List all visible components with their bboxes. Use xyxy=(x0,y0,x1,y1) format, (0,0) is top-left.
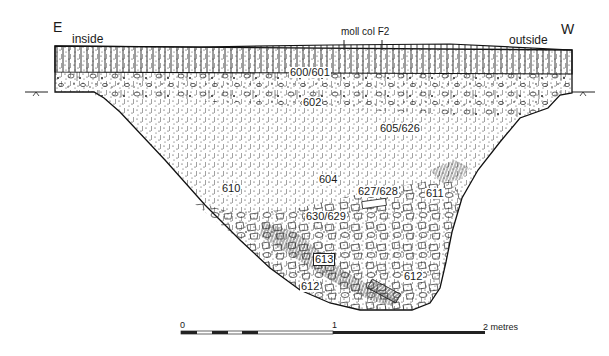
scale-label-0: 0 xyxy=(179,320,186,331)
context-label: 611 xyxy=(425,188,445,199)
context-label: 602 xyxy=(302,97,322,108)
scale-label-2: 2 metres xyxy=(482,322,519,333)
context-label: 630/629 xyxy=(305,211,347,222)
context-label: 605/626 xyxy=(379,123,421,134)
label-inside: inside xyxy=(71,34,104,45)
scale-bar xyxy=(181,331,485,334)
moll-col-label: moll col F2 xyxy=(340,26,390,37)
context-label: 610 xyxy=(221,183,241,194)
context-label: 604 xyxy=(318,174,338,185)
ground-level-marker-left xyxy=(25,92,48,96)
context-label: 612 xyxy=(300,281,320,292)
direction-west: W xyxy=(560,24,575,35)
scale-label-1: 1 xyxy=(331,320,338,331)
label-outside: outside xyxy=(508,35,549,46)
context-label: 627/628 xyxy=(357,186,399,197)
context-label: 613 xyxy=(313,253,335,266)
ground-level-marker-right xyxy=(572,92,595,96)
direction-east: E xyxy=(52,22,63,33)
section-drawing xyxy=(0,0,609,356)
context-label: 600/601 xyxy=(289,67,331,78)
context-label: 612 xyxy=(403,271,423,282)
